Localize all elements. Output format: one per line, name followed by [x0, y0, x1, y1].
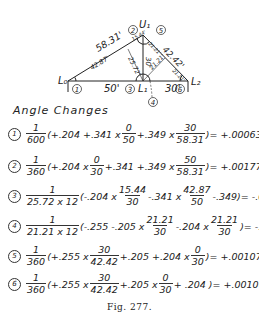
- denominator: 360: [26, 283, 46, 295]
- label-25-72: 25.72': [126, 55, 142, 77]
- term-fraction: 5058.31: [176, 155, 205, 177]
- term-fraction: 030: [90, 155, 104, 177]
- term-text: +.205 +.204 x: [120, 251, 190, 262]
- coefficient-fraction: 125.72 x 12: [26, 185, 79, 207]
- denominator: 30: [159, 283, 173, 295]
- denominator: 600: [26, 133, 46, 145]
- numerator: 50: [183, 155, 197, 165]
- numerator: 1: [32, 273, 40, 283]
- node-L0: L₀: [58, 75, 68, 86]
- coefficient-fraction: 1600: [26, 123, 46, 145]
- truss-diagram: 1 2 3 4 5 6 L₀ U₁ L₁ L₂ 58.31' 42.87' 42…: [0, 0, 259, 110]
- denominator: 58.31: [176, 133, 205, 145]
- term-text: (-.255 -.205 x: [80, 221, 145, 232]
- node-U1: U₁: [139, 19, 150, 30]
- denominator: 58.31: [176, 165, 205, 177]
- term-text: -.349): [213, 191, 241, 202]
- numerator: 0: [162, 273, 170, 283]
- term-text: (+.255 x: [47, 251, 88, 262]
- term-text: +.349 x: [137, 129, 175, 140]
- denominator: 50: [122, 133, 136, 145]
- numerator: 0: [125, 123, 133, 133]
- equation-marker: 1: [8, 128, 21, 141]
- numerator: 30: [97, 245, 111, 255]
- numerator: 15.44: [118, 185, 147, 195]
- equation-result: = +.001068: [213, 279, 259, 290]
- leader-4: [150, 81, 152, 98]
- numerator: 1: [48, 185, 56, 195]
- term-text: (+.255 x: [47, 279, 88, 290]
- equation-marker: 6: [8, 278, 21, 291]
- numerator: 0: [93, 155, 101, 165]
- numerator: 21.21: [145, 215, 174, 225]
- term-fraction: 21.2130: [145, 215, 174, 237]
- term-fraction: 030: [191, 245, 205, 267]
- denominator: 50: [190, 195, 204, 207]
- denominator: 30: [217, 225, 231, 237]
- term-text: (-.204 x: [80, 191, 117, 202]
- numerator: 30: [183, 123, 197, 133]
- equation-result: = -.002417: [241, 191, 259, 202]
- term-fraction: 030: [159, 273, 173, 295]
- numerator: 1: [32, 155, 40, 165]
- denominator: 30: [191, 255, 205, 267]
- equation-result: = -.002138: [244, 221, 259, 232]
- denominator: 360: [26, 255, 46, 267]
- coefficient-fraction: 1360: [26, 155, 46, 177]
- equation-result: = +.001070: [210, 251, 259, 262]
- term-text: (+.204 +.341 x: [47, 129, 121, 140]
- term-text: (+.204 x: [47, 161, 88, 172]
- numerator: 1: [32, 245, 40, 255]
- label-58-31: 58.31': [93, 29, 124, 54]
- term-fraction: 21.2130: [210, 215, 239, 237]
- term-text: +.205 x: [120, 279, 158, 290]
- numerator: 30: [97, 273, 111, 283]
- label-30-bottom: 30': [165, 83, 180, 94]
- equation-1: 11600 (+.204 +.341 x 050 +.349 x 3058.31…: [8, 118, 259, 150]
- node-L2: L₂: [191, 76, 201, 87]
- svg-text:4: 4: [151, 99, 155, 107]
- denominator: 21.21 x 12: [26, 225, 79, 237]
- equation-marker: 5: [8, 250, 21, 263]
- equation-result: = +.000639: [210, 129, 259, 140]
- coefficient-fraction: 121.21 x 12: [26, 215, 79, 237]
- numerator: 1: [48, 215, 56, 225]
- svg-text:3: 3: [128, 86, 132, 94]
- term-fraction: 050: [122, 123, 136, 145]
- numerator: 0: [194, 245, 202, 255]
- numerator: 21.21: [210, 215, 239, 225]
- term-text: -.341 x: [148, 191, 181, 202]
- equation-6: 61360 (+.255 x 3042.42 +.205 x 030 + .20…: [8, 268, 259, 300]
- equation-2: 21360 (+.204 x 030 +.341 +.349 x 5058.31…: [8, 150, 259, 182]
- equation-marker: 2: [8, 160, 21, 173]
- coefficient-fraction: 1360: [26, 273, 46, 295]
- equation-4: 4121.21 x 12 (-.255 -.205 x 21.2130 -.20…: [8, 210, 259, 242]
- term-text: + .204 ): [174, 279, 213, 290]
- term-fraction: 15.4430: [118, 185, 147, 207]
- term-fraction: 3058.31: [176, 123, 205, 145]
- svg-text:1: 1: [75, 86, 79, 94]
- term-fraction: 42.8750: [182, 185, 211, 207]
- svg-text:5: 5: [159, 27, 164, 35]
- label-50: 50': [104, 83, 119, 94]
- term-text: -.204 x: [176, 221, 209, 232]
- denominator: 30: [153, 225, 167, 237]
- node-L1: L₁: [138, 83, 148, 94]
- term-fraction: 3042.42: [90, 245, 119, 267]
- denominator: 25.72 x 12: [26, 195, 79, 207]
- denominator: 42.42: [90, 283, 119, 295]
- denominator: 360: [26, 165, 46, 177]
- denominator: 42.42: [90, 255, 119, 267]
- denominator: 30: [125, 195, 139, 207]
- coefficient-fraction: 1360: [26, 245, 46, 267]
- denominator: 30: [90, 165, 104, 177]
- equation-marker: 3: [8, 190, 21, 203]
- equation-3: 3125.72 x 12 (-.204 x 15.4430 -.341 x 42…: [8, 180, 259, 212]
- equation-marker: 4: [8, 220, 21, 233]
- label-42-87: 42.87': [89, 54, 111, 71]
- term-fraction: 3042.42: [90, 273, 119, 295]
- term-text: +.341 +.349 x: [105, 161, 175, 172]
- angle-arc-1: [75, 77, 76, 81]
- numerator: 42.87: [182, 185, 211, 195]
- figure-caption: Fig. 277.: [0, 302, 259, 312]
